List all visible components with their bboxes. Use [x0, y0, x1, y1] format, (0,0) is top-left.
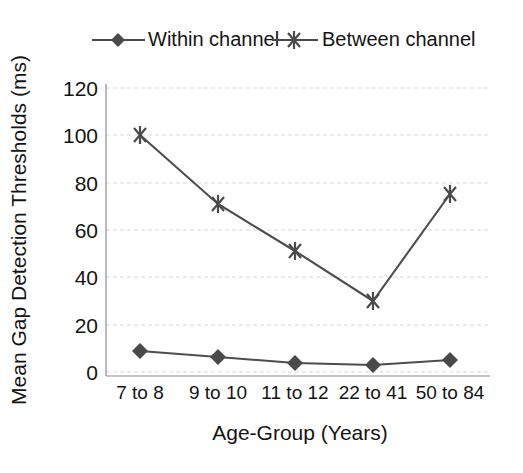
y-tick-60: 60 [75, 219, 98, 242]
gridlines [106, 88, 490, 372]
legend-entry-between-channel[interactable]: Between channel [272, 28, 475, 50]
legend-entry-within-channel[interactable]: Within channel [92, 28, 279, 50]
data-point-between-11-to-12 [289, 242, 301, 260]
gap-detection-threshold-chart: Within channel Between channel [0, 0, 523, 473]
y-tick-40: 40 [75, 266, 98, 289]
data-point-between-9-to-10 [212, 195, 224, 213]
data-point-within-11-to-12 [287, 355, 303, 371]
series-between-channel [134, 126, 456, 310]
x-axis-title: Age-Group (Years) [212, 421, 387, 444]
x-tick-7-to-8: 7 to 8 [116, 382, 164, 403]
y-axis-tick-labels: 120 100 80 60 40 20 0 [63, 77, 98, 384]
data-point-between-50-to-84 [444, 185, 456, 203]
data-point-within-22-to-41 [365, 357, 381, 373]
y-tick-80: 80 [75, 172, 98, 195]
y-tick-20: 20 [75, 314, 98, 337]
series-within-channel [132, 343, 458, 373]
chart-canvas: Within channel Between channel [0, 0, 523, 473]
series-line-between-channel [140, 135, 450, 301]
diamond-marker-icon [111, 33, 125, 47]
data-point-within-50-to-84 [442, 352, 458, 368]
y-tick-120: 120 [63, 77, 98, 100]
x-tick-22-to-41: 22 to 41 [339, 382, 408, 403]
x-axis-tick-labels: 7 to 8 9 to 10 11 to 12 22 to 41 50 to 8… [116, 382, 485, 403]
y-axis-title: Mean Gap Detection Thresholds (ms) [7, 55, 30, 405]
chart-legend: Within channel Between channel [92, 28, 475, 50]
x-tick-9-to-10: 9 to 10 [189, 382, 247, 403]
x-tick-11-to-12: 11 to 12 [261, 382, 328, 403]
y-tick-100: 100 [63, 124, 98, 147]
data-point-within-9-to-10 [210, 349, 226, 365]
y-tick-0: 0 [86, 361, 98, 384]
legend-label-within-channel: Within channel [148, 28, 279, 50]
data-point-between-22-to-41 [367, 292, 379, 310]
legend-label-between-channel: Between channel [322, 28, 475, 50]
x-tick-50-to-84: 50 to 84 [416, 382, 485, 403]
data-point-within-7-to-8 [132, 343, 148, 359]
